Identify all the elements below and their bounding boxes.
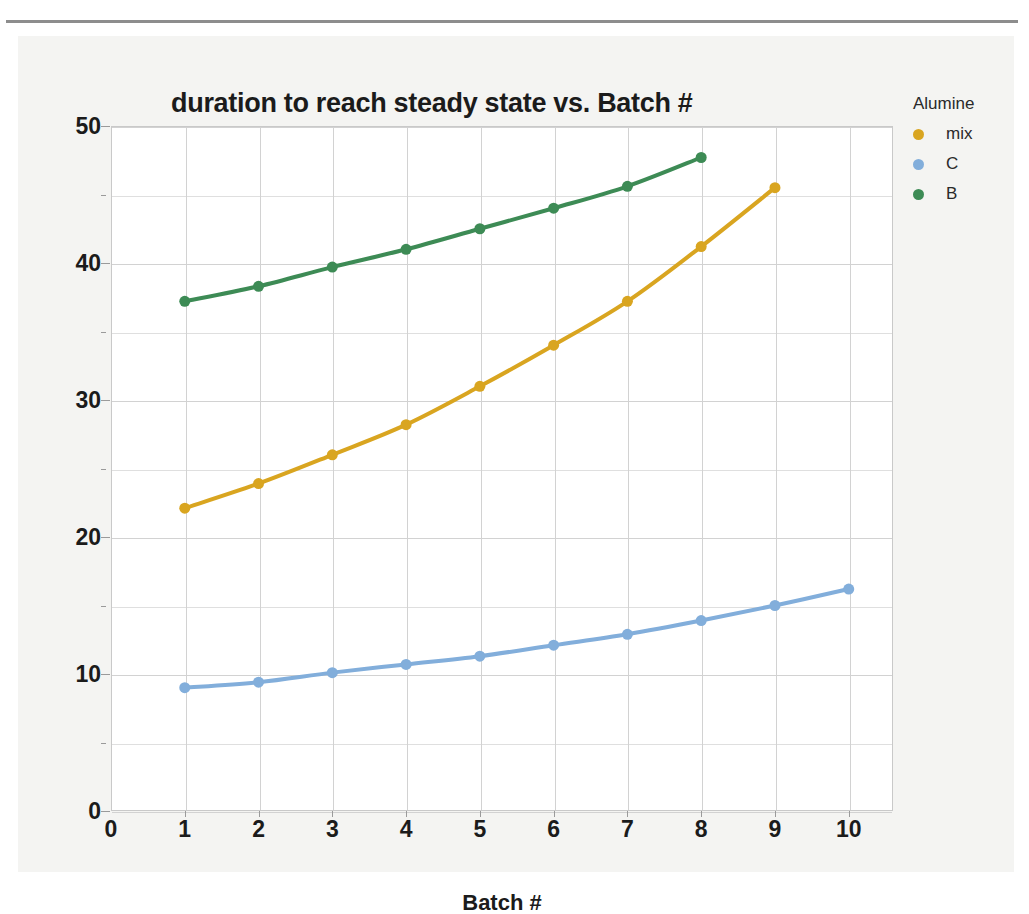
data-point-C <box>327 667 338 678</box>
data-point-B <box>622 181 633 192</box>
data-point-mix <box>548 340 559 351</box>
x-tick-label: 0 <box>105 816 118 843</box>
y-axis-tick-labels: 01020304050 <box>51 126 101 811</box>
legend-item-C[interactable]: C <box>913 154 1013 174</box>
data-point-B <box>696 152 707 163</box>
data-point-mix <box>327 449 338 460</box>
legend-item-label: C <box>946 154 958 174</box>
data-point-mix <box>769 182 780 193</box>
legend-item-label: B <box>946 184 957 204</box>
data-point-C <box>474 651 485 662</box>
data-point-C <box>769 600 780 611</box>
x-tick-mark <box>332 811 333 817</box>
y-tick-mark <box>101 674 110 675</box>
x-tick-mark <box>849 811 850 817</box>
legend-title: Alumine <box>913 94 1013 114</box>
x-tick-mark <box>259 811 260 817</box>
data-point-C <box>548 640 559 651</box>
y-tick-label: 20 <box>75 524 101 551</box>
x-axis-tick-labels: 012345678910 <box>111 816 893 856</box>
data-point-mix <box>401 419 412 430</box>
data-point-B <box>253 281 264 292</box>
x-tick-label: 2 <box>252 816 265 843</box>
data-point-mix <box>253 478 264 489</box>
legend-item-mix[interactable]: mix <box>913 124 1013 144</box>
y-tick-mark-minor <box>101 195 106 196</box>
data-point-B <box>401 244 412 255</box>
x-tick-label: 6 <box>547 816 560 843</box>
x-tick-mark <box>627 811 628 817</box>
data-point-mix <box>179 503 190 514</box>
y-tick-mark <box>101 400 110 401</box>
y-tick-mark <box>101 537 110 538</box>
x-tick-mark <box>701 811 702 817</box>
y-tick-label: 40 <box>75 250 101 277</box>
x-tick-mark <box>185 811 186 817</box>
data-point-mix <box>474 381 485 392</box>
x-tick-label: 3 <box>326 816 339 843</box>
series-line-B <box>185 158 701 302</box>
chart-panel: duration to reach steady state vs. Batch… <box>111 90 901 830</box>
data-point-C <box>179 682 190 693</box>
data-point-mix <box>696 241 707 252</box>
data-point-B <box>179 296 190 307</box>
y-tick-mark-minor <box>101 606 106 607</box>
series-line-mix <box>185 188 775 509</box>
chart-title: duration to reach steady state vs. Batch… <box>171 88 693 119</box>
y-tick-mark-minor <box>101 469 106 470</box>
x-tick-label: 7 <box>621 816 634 843</box>
legend-swatch-icon <box>913 159 924 170</box>
y-tick-mark <box>101 263 110 264</box>
top-divider-rule <box>6 20 1018 23</box>
data-point-mix <box>622 296 633 307</box>
legend-swatch-icon <box>913 189 924 200</box>
data-point-C <box>401 659 412 670</box>
data-point-B <box>327 262 338 273</box>
x-tick-mark <box>554 811 555 817</box>
data-point-C <box>696 615 707 626</box>
x-tick-label: 9 <box>769 816 782 843</box>
data-point-C <box>622 629 633 640</box>
y-tick-mark-minor <box>101 743 106 744</box>
x-tick-label: 5 <box>473 816 486 843</box>
data-point-B <box>548 203 559 214</box>
legend: Alumine mixCB <box>913 94 1013 214</box>
y-tick-label: 10 <box>75 661 101 688</box>
y-tick-label: 0 <box>88 798 101 825</box>
data-point-C <box>253 677 264 688</box>
legend-items: mixCB <box>913 124 1013 204</box>
series-layer <box>111 126 893 811</box>
data-point-C <box>843 584 854 595</box>
x-axis-title: Batch # <box>111 890 893 914</box>
legend-item-label: mix <box>946 124 972 144</box>
x-tick-mark <box>406 811 407 817</box>
y-tick-mark <box>101 811 110 812</box>
y-tick-label: 50 <box>75 113 101 140</box>
legend-item-B[interactable]: B <box>913 184 1013 204</box>
x-tick-mark <box>775 811 776 817</box>
x-tick-label: 8 <box>695 816 708 843</box>
series-line-C <box>185 589 849 688</box>
chart-figure: duration to reach steady state vs. Batch… <box>18 36 1014 872</box>
legend-swatch-icon <box>913 129 924 140</box>
x-tick-mark <box>480 811 481 817</box>
series-C <box>179 584 854 694</box>
series-B <box>179 152 706 307</box>
data-point-B <box>474 223 485 234</box>
y-tick-label: 30 <box>75 387 101 414</box>
y-tick-mark-minor <box>101 332 106 333</box>
y-tick-mark <box>101 126 110 127</box>
x-tick-label: 4 <box>400 816 413 843</box>
x-tick-label: 1 <box>178 816 191 843</box>
x-tick-label: 10 <box>836 816 862 843</box>
